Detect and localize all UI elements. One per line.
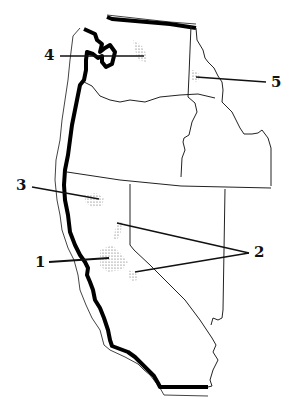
marker-label-3: 3 — [16, 178, 26, 193]
stipple-region-3 — [84, 193, 104, 207]
marker-label-1: 1 — [35, 255, 45, 270]
coastline-outer-line — [55, 15, 208, 396]
border-or-id — [181, 97, 197, 177]
leader-line-2b — [135, 253, 249, 272]
marker-label-5: 5 — [271, 75, 281, 90]
stipple-region-4 — [133, 40, 147, 62]
stipple-region-2a — [113, 222, 122, 240]
border-wa-or — [84, 82, 215, 102]
marker-label-2: 2 — [254, 245, 264, 260]
leader-line-2a — [117, 223, 249, 253]
coastline — [64, 17, 208, 387]
leader-line-5 — [196, 77, 266, 82]
marker-label-4: 4 — [44, 48, 54, 63]
border-ca-nv — [130, 184, 218, 387]
border-wa-id — [188, 26, 191, 97]
border-id-mt — [196, 28, 271, 186]
border-or-ca-nv-id — [67, 172, 271, 188]
stipple-region-5 — [191, 70, 200, 82]
